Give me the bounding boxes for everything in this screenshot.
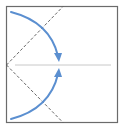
- origami-diagram: [0, 0, 125, 132]
